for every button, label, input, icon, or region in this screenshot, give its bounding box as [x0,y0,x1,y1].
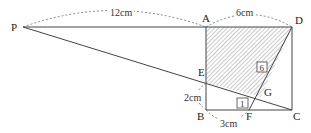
point-label-F: F [246,110,252,122]
dimension-label-EB: 2cm [184,92,201,103]
area-box-triangle-value: 1 [240,99,245,109]
point-label-C: C [293,110,300,122]
shaded-region [206,27,292,97]
point-label-E: E [198,66,205,78]
point-label-G: G [264,86,272,98]
point-label-D: D [295,14,303,26]
dimension-label-PA: 12cm [110,7,132,18]
dimension-label-AD: 6cm [236,7,253,18]
point-label-P: P [11,21,17,33]
geometry-diagram: 12cm 6cm 2cm 3cm P A D E B C F G 6 1 [0,0,311,133]
point-label-B: B [197,110,204,122]
area-box-shaded-value: 6 [260,63,265,73]
dimension-label-BF: 3cm [220,118,237,129]
point-label-A: A [202,12,210,24]
